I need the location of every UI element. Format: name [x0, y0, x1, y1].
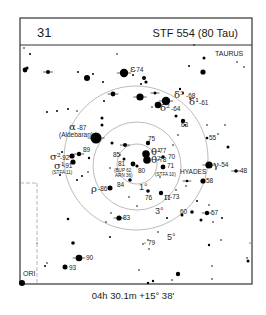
star — [196, 200, 198, 202]
star — [205, 161, 212, 168]
star — [77, 71, 79, 73]
star — [71, 241, 75, 245]
svg-text:δ¹: δ¹ — [189, 96, 199, 107]
svg-text:-91: -91 — [63, 162, 73, 169]
star — [172, 144, 174, 146]
star-label-90: 90 — [86, 254, 94, 261]
svg-text:(STFA 11): (STFA 11) — [52, 170, 73, 175]
svg-text:-87: -87 — [77, 124, 87, 131]
star — [84, 75, 90, 81]
star — [249, 242, 250, 243]
star — [131, 162, 136, 167]
star — [175, 115, 178, 118]
star-label-83: 83 — [123, 214, 131, 221]
star-label-85: 85 — [113, 151, 121, 158]
star — [234, 169, 238, 173]
star-label-89: 89 — [83, 146, 91, 153]
svg-text:-77: -77 — [157, 147, 167, 154]
star — [46, 70, 50, 74]
star — [243, 66, 245, 68]
star — [211, 265, 213, 267]
svg-text:-64: -64 — [171, 105, 181, 112]
star — [92, 73, 94, 75]
star — [101, 117, 104, 120]
star — [217, 133, 219, 135]
star — [144, 80, 147, 83]
star — [138, 269, 140, 271]
star-label-sigma1: σ¹ -91 (STFA 11) — [52, 160, 73, 175]
star-label-81: 81 — [118, 160, 126, 167]
star — [166, 217, 168, 219]
star — [63, 265, 68, 270]
svg-text:-54: -54 — [219, 161, 229, 168]
star — [227, 146, 230, 149]
star — [111, 142, 114, 145]
star — [221, 217, 223, 219]
star — [102, 81, 104, 83]
star — [246, 257, 248, 259]
star — [161, 165, 166, 170]
svg-text:-61: -61 — [199, 99, 209, 106]
star — [36, 242, 37, 243]
star — [206, 124, 208, 126]
star-label-71: 71 — [167, 162, 175, 169]
cluster-label-hyades: HYADES — [180, 168, 207, 175]
chart-number: 31 — [37, 25, 51, 40]
star — [176, 272, 180, 276]
star — [109, 167, 111, 169]
star — [140, 83, 142, 85]
star — [203, 57, 206, 60]
ring-label-3: 3° — [155, 206, 164, 216]
star-label-80: 80 — [138, 167, 146, 174]
star — [157, 231, 159, 233]
chart-coordinates: 04h 30.1m +15° 38' — [0, 290, 266, 301]
star — [186, 180, 189, 183]
star — [108, 186, 113, 191]
star — [76, 110, 78, 112]
star-label-55: 55 — [209, 134, 217, 141]
star — [171, 279, 173, 281]
star — [116, 215, 121, 220]
star-label-70: 70 — [168, 153, 176, 160]
star — [147, 282, 149, 284]
star — [208, 204, 210, 206]
star-label-48: 48 — [240, 167, 248, 174]
star — [224, 124, 226, 126]
star-label-57: 57 — [211, 209, 219, 216]
star-label-stfa10: (STFA 10) — [155, 172, 176, 177]
star — [103, 100, 105, 102]
star — [109, 236, 111, 238]
star — [128, 196, 130, 198]
star — [175, 189, 177, 191]
star — [69, 153, 74, 158]
star — [200, 69, 205, 74]
star — [136, 205, 138, 207]
star — [128, 178, 132, 182]
star — [81, 175, 83, 177]
star — [142, 76, 146, 80]
star — [132, 74, 134, 76]
svg-text:ρ: ρ — [91, 183, 97, 194]
star — [111, 92, 116, 97]
star — [110, 212, 112, 214]
ring-label-1: 1° — [139, 182, 148, 192]
svg-text:-86: -86 — [98, 185, 108, 192]
star — [208, 244, 210, 246]
svg-text:(Aldebaran): (Aldebaran) — [59, 131, 93, 139]
star — [200, 219, 203, 222]
star — [159, 191, 163, 195]
star — [185, 185, 187, 187]
star — [116, 53, 118, 55]
constellation-label-ori: ORI — [23, 270, 36, 277]
star-label-79: 79 — [148, 239, 156, 246]
star — [88, 157, 90, 159]
star — [46, 262, 48, 264]
star-chart: 31 STF 554 (80 Tau) TAURUS ORI HYADES 1°… — [0, 0, 266, 315]
star — [56, 110, 58, 112]
star — [177, 134, 179, 136]
star-label-76: 76 — [145, 194, 153, 201]
star — [87, 171, 89, 173]
star — [77, 152, 81, 156]
star — [144, 242, 145, 243]
star-label-84: 84 — [117, 181, 125, 188]
